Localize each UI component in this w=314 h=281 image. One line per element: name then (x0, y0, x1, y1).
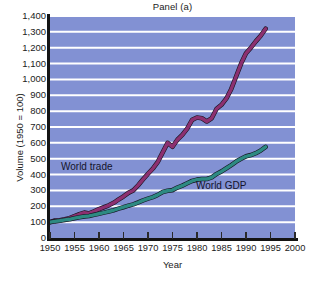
x-tick-mark (49, 232, 51, 239)
x-tick-labels: 1950195519601965197019751980198519901995… (0, 0, 314, 281)
x-tick-mark (172, 232, 174, 239)
x-tick-mark (74, 232, 76, 239)
x-tick-mark (123, 232, 125, 239)
x-tick-mark (245, 232, 247, 239)
series-label-world-trade: World trade (61, 161, 113, 172)
x-axis-title: Year (50, 259, 295, 270)
x-tick-mark (196, 232, 198, 239)
x-tick-mark (221, 232, 223, 239)
x-tick-mark (98, 232, 100, 239)
x-tick-label: 2000 (275, 243, 314, 253)
x-tick-mark (147, 232, 149, 239)
chart-figure: Panel (a) Volume (1950 = 100) 0100200300… (0, 0, 314, 281)
series-label-world-gdp: World GDP (196, 180, 246, 191)
x-tick-mark (294, 232, 296, 239)
x-tick-mark (270, 232, 272, 239)
